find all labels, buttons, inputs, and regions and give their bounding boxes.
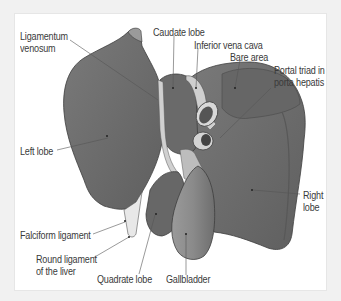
label-portal-triad: Portal triad in porta hepatis — [274, 64, 325, 88]
label-portal-triad-line2: porta hepatis — [274, 76, 325, 88]
label-round-ligament: Round ligament of the liver — [36, 253, 97, 277]
label-ligamentum-venosum: Ligamentum venosum — [20, 30, 68, 54]
label-caudate-lobe: Caudate lobe — [153, 26, 205, 38]
label-round-ligament-line2: of the liver — [36, 265, 97, 277]
label-round-ligament-line1: Round ligament — [36, 253, 97, 265]
label-ligamentum-venosum-line1: Ligamentum — [20, 30, 68, 42]
label-ligamentum-venosum-line2: venosum — [20, 42, 68, 54]
label-left-lobe: Left lobe — [20, 145, 53, 157]
portal-vein-lumen — [201, 134, 211, 146]
label-falciform-ligament: Falciform ligament — [20, 229, 91, 241]
left-lobe-shape — [64, 29, 164, 209]
label-bare-area: Bare area — [230, 51, 268, 63]
label-portal-triad-line1: Portal triad in — [274, 64, 325, 76]
label-right-lobe-line1: Right — [303, 189, 323, 201]
label-inferior-vena-cava: Inferior vena cava — [194, 39, 263, 51]
label-quadrate-lobe: Quadrate lobe — [97, 273, 152, 285]
label-right-lobe-line2: lobe — [303, 201, 323, 213]
label-gallbladder: Gallbladder — [166, 273, 210, 285]
label-right-lobe: Right lobe — [303, 189, 323, 213]
